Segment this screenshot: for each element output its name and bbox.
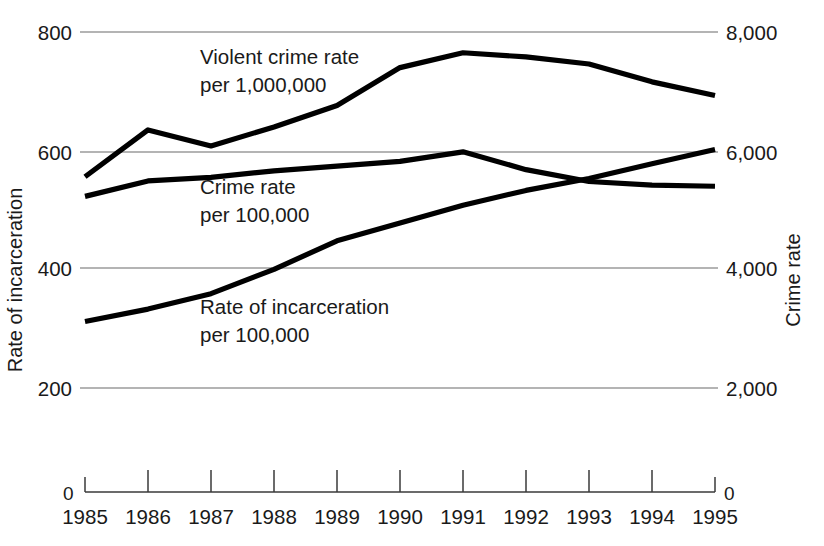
annotation-rate-of-incarceration-line1: Rate of incarceration [200, 295, 389, 318]
right-tick-label-6000: 6,000 [726, 141, 777, 164]
annotation-violent-crime-rate-line2: per 1,000,000 [200, 73, 327, 96]
right-axis-tick-labels: 8,000 6,000 4,000 2,000 [726, 21, 777, 400]
x-axis-label-1995: 1995 [692, 505, 738, 528]
series-violent-crime-rate [85, 53, 715, 177]
x-axis [85, 470, 715, 492]
x-axis-label-1994: 1994 [629, 505, 675, 528]
left-tick-label-400: 400 [38, 257, 72, 280]
left-axis-title: Rate of incarceration [4, 188, 26, 373]
annotation-crime-rate-line2: per 100,000 [200, 203, 309, 226]
data-series [85, 53, 715, 322]
left-tick-label-800: 800 [38, 21, 72, 44]
annotation-rate-of-incarceration-line2: per 100,000 [200, 323, 309, 346]
right-tick-label-2000: 2,000 [726, 377, 777, 400]
left-tick-label-200: 200 [38, 377, 72, 400]
x-axis-label-1991: 1991 [440, 505, 486, 528]
chart-figure: 800 600 400 200 8,000 6,000 4,000 2,000 … [0, 0, 824, 546]
x-axis-label-1990: 1990 [377, 505, 423, 528]
gridlines [80, 32, 718, 388]
x-axis-ticks [148, 470, 652, 492]
x-axis-tick-labels: 1985198619871988198919901991199219931994… [62, 505, 738, 528]
x-axis-label-1986: 1986 [125, 505, 171, 528]
left-tick-label-600: 600 [38, 141, 72, 164]
x-axis-label-1992: 1992 [503, 505, 549, 528]
annotation-crime-rate-line1: Crime rate [200, 175, 296, 198]
x-axis-label-1989: 1989 [314, 505, 360, 528]
left-axis-tick-labels: 800 600 400 200 [38, 21, 72, 400]
right-tick-label-4000: 4,000 [726, 257, 777, 280]
x-axis-label-1987: 1987 [188, 505, 234, 528]
dual-axis-line-chart: 800 600 400 200 8,000 6,000 4,000 2,000 … [0, 0, 824, 546]
x-axis-label-1985: 1985 [62, 505, 108, 528]
x-axis-label-1988: 1988 [251, 505, 297, 528]
x-axis-label-1993: 1993 [566, 505, 612, 528]
annotation-violent-crime-rate-line1: Violent crime rate [200, 45, 359, 68]
series-crime-rate [85, 152, 715, 197]
right-tick-label-8000: 8,000 [726, 21, 777, 44]
series-rate-of-incarceration [85, 149, 715, 321]
right-axis-title: Crime rate [782, 233, 804, 326]
x-axis-zero-label-right: 0 [724, 483, 735, 504]
x-axis-zero-label-left: 0 [63, 483, 74, 504]
